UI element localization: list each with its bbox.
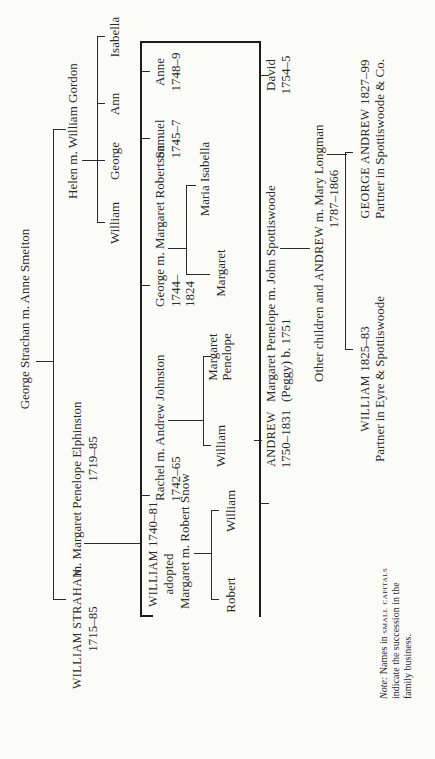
grandchild-george-andrew-name: GEORGE ANDREW (358, 108, 372, 218)
william-adopted: adopted (162, 529, 176, 619)
andrew-dates: 1750–1831 (279, 399, 293, 479)
grandchild-george-andrew-dates: 1827–99 (357, 60, 372, 106)
spottiswoode-couple: Margaret Penelope m. John Spottiswoode (264, 185, 278, 402)
gordon-children-bar (97, 36, 98, 223)
gordon-tick-4 (97, 36, 105, 37)
andrew-spottiswoode-name: ANDREW (312, 226, 326, 282)
strahan-children-bar (140, 41, 142, 617)
william-dates: 1740–81 (145, 501, 160, 547)
johnston-tick-1 (203, 445, 211, 446)
snow-children-bar (211, 510, 212, 600)
tick-samuel (142, 138, 150, 139)
robertson-child-maria-isabella: Maria Isabella (198, 129, 212, 229)
strahan-spouse-dates: 1719–85 (86, 399, 100, 519)
andrew-name: ANDREW (264, 409, 278, 469)
longman-tick-1 (345, 349, 353, 350)
helen-drop-line (82, 160, 97, 161)
grandchild-george-andrew-role: Partner in Spottiswoode & Co. (373, 29, 387, 249)
family-tree-diagram: George Strachan m. Anne Smeiton WILLIAM … (0, 0, 435, 759)
snow-child-william: William (224, 481, 238, 541)
andrew-spottiswoode-dates: 1787–1866 (327, 159, 341, 239)
robertson-tick-1 (186, 274, 210, 275)
root-drop-line (36, 361, 53, 362)
snow-child-robert: Robert (224, 565, 238, 625)
robertson-child-margaret: Margaret (214, 238, 228, 308)
longman-text: m. Mary Longman (311, 125, 326, 223)
footnote-text-1: Names in (378, 636, 389, 674)
longman-drop-line (327, 154, 347, 155)
longman-children-bar (345, 152, 346, 350)
grandchild-william-role: Partner in Eyre & Spottiswoode (373, 269, 387, 489)
strahan-drop-line (84, 543, 140, 544)
gordon-tick-3 (97, 103, 105, 104)
spottiswoode-drop-line (280, 248, 310, 249)
david-name: David (264, 45, 278, 105)
johnston-children-bar (203, 356, 204, 446)
gordon-tick-1 (97, 222, 105, 223)
spottiswoode-child-line: Other children and ANDREW m. Mary Longma… (312, 125, 326, 382)
helen-couple: Helen m. William Gordon (66, 63, 80, 199)
anne-dates: 1748–9 (169, 42, 183, 102)
samuel-dates: 1745–7 (169, 109, 183, 169)
grandchild-william-dates: 1825–83 (357, 326, 372, 372)
gordon-child-isabella: Isabella (108, 7, 122, 67)
strahan-spouse: m. Margaret Penelope Elphinston (70, 401, 84, 576)
anne-name: Anne (153, 42, 167, 102)
george-dates-1: 1744– (169, 275, 183, 308)
footnote: Note: Names in small capitals indicate t… (378, 568, 414, 699)
andrew-branch (259, 41, 261, 617)
gordon-child-george: George (108, 131, 122, 191)
footnote-line-2: indicate the succession in the (390, 568, 402, 699)
footnote-label: Note: (378, 677, 389, 699)
robertson-tick-2 (186, 185, 196, 186)
george-dates-2: 1824 (183, 281, 197, 307)
gordon-tick-2 (97, 160, 105, 161)
tick-anne (142, 71, 150, 72)
snow-tick-1 (211, 599, 219, 600)
gen1-bar (53, 129, 54, 600)
root-couple: George Strachan m. Anne Smeiton (18, 159, 32, 479)
robertson-bracket-v (186, 185, 187, 275)
grandchild-george-andrew: GEORGE ANDREW 1827–99 (358, 39, 372, 239)
tick-rachel (142, 495, 150, 496)
strahan-children-left-edge (140, 615, 153, 617)
gordon-child-ann: Ann (108, 74, 122, 134)
strahan-child-william: WILLIAM 1740–81 (146, 501, 160, 607)
footnote-line-3: family business. (402, 568, 414, 699)
tick-george (142, 285, 150, 286)
samuel-name: Samuel (153, 109, 167, 169)
snow-tick-2 (211, 510, 219, 511)
footnote-line-1: Note: Names in small capitals (378, 568, 390, 699)
rachel-dates: 1742–65 (169, 454, 183, 504)
grandchild-william-name: WILLIAM (358, 375, 372, 432)
william-strahan-name: WILLIAM STRAHAN (70, 569, 84, 689)
rachel-couple: Rachel m. Andrew Johnston (153, 354, 167, 501)
footnote-small-caps: small capitals (378, 568, 389, 634)
grandchild-william: WILLIAM 1825–83 (358, 289, 372, 469)
other-children-text: Other children and (311, 285, 326, 382)
andrew-tick (254, 440, 262, 441)
george-couple: George m. Margaret Robertson (153, 145, 167, 307)
gordon-child-william: William (108, 193, 122, 253)
johnston-child-margaret-penelope: Margaret Penelope (206, 322, 234, 392)
johnston-drop-line (168, 420, 203, 421)
strahan-tick (53, 599, 66, 600)
tick-margaret-penelope (261, 503, 269, 504)
robertson-drop-line (168, 248, 186, 249)
william-strahan-dates: 1715–85 (86, 569, 100, 689)
longman-tick-2 (345, 152, 353, 153)
david-dates: 1754–5 (279, 45, 293, 105)
johnston-child-william: William (214, 416, 228, 476)
william-name: WILLIAM (146, 550, 160, 607)
snow-drop-line (194, 553, 211, 554)
margaret-penelope-peggy: (Peggy) b. 1751 (279, 319, 293, 402)
